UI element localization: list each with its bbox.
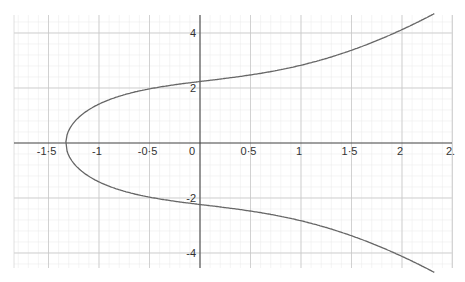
x-tick-labels: -1·5-1-0·50·511·522. [37, 145, 455, 157]
major-grid [14, 15, 453, 268]
x-tick-label: 2 [397, 145, 403, 157]
y-tick-label: 4 [190, 27, 196, 39]
minor-grid [14, 15, 452, 268]
x-tick-label: 0·5 [241, 145, 257, 157]
x-tick-label: 1·5 [342, 145, 358, 157]
x-tick-label: -1 [92, 145, 102, 157]
y-tick-label: -2 [186, 192, 196, 204]
y-tick-label: 2 [190, 82, 196, 94]
x-tick-label: 1 [296, 145, 302, 157]
x-tick-label: 2. [446, 145, 455, 157]
origin-label: 0 [189, 145, 195, 157]
chart-canvas: -1·5-1-0·50·511·522. 42-2-4 0 [0, 0, 465, 282]
y-tick-label: -4 [186, 247, 196, 259]
x-tick-label: -1·5 [37, 145, 57, 157]
x-tick-label: -0·5 [138, 145, 158, 157]
